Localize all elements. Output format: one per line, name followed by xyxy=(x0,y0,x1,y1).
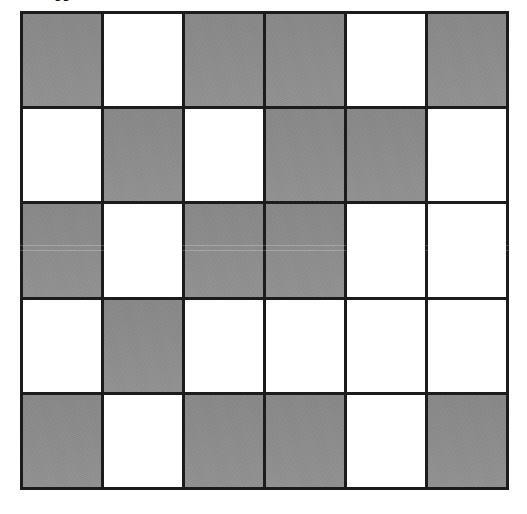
caption-text: rJ xyxy=(55,0,72,6)
grid-cell xyxy=(266,14,344,106)
figure-page: rJ xyxy=(0,0,527,514)
grid-cell xyxy=(104,300,182,392)
grid-cell xyxy=(347,109,425,201)
grid-cell xyxy=(185,395,263,487)
grid-cell xyxy=(347,395,425,487)
grid-cell xyxy=(347,14,425,106)
grid-cell xyxy=(185,109,263,201)
grid-cell xyxy=(23,395,101,487)
grid-cell xyxy=(23,300,101,392)
grid-cell xyxy=(266,395,344,487)
grid-cell xyxy=(428,395,506,487)
grid-cell xyxy=(23,14,101,106)
shaded-grid xyxy=(20,11,509,490)
grid-cell xyxy=(428,109,506,201)
grid-cell xyxy=(23,109,101,201)
grid-cell xyxy=(347,204,425,296)
grid-cell xyxy=(266,109,344,201)
grid-cell xyxy=(185,300,263,392)
grid-cell xyxy=(347,300,425,392)
grid-cell xyxy=(266,204,344,296)
clipped-caption: rJ xyxy=(0,0,527,10)
grid-cell xyxy=(23,204,101,296)
grid-cell xyxy=(104,204,182,296)
grid-cell xyxy=(104,109,182,201)
grid-cell xyxy=(104,14,182,106)
grid-cell xyxy=(428,14,506,106)
grid-cell xyxy=(185,14,263,106)
grid-cell xyxy=(428,300,506,392)
grid-cell xyxy=(104,395,182,487)
grid-cell xyxy=(185,204,263,296)
grid-cell xyxy=(428,204,506,296)
grid-cell xyxy=(266,300,344,392)
